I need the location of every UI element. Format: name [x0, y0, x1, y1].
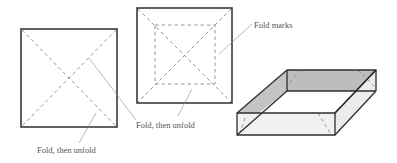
box-front-wall [237, 113, 335, 135]
leader-line [89, 58, 136, 120]
fold-then-unfold-label: Fold, then unfold [37, 145, 97, 155]
origami-box-diagram: Fold, then unfold Fold marks Fold, then … [0, 0, 397, 163]
step-1-square: Fold, then unfold [21, 29, 136, 155]
leader-line [219, 24, 252, 54]
leader-line [79, 113, 96, 143]
step-3-box [237, 70, 376, 135]
fold-marks-label: Fold marks [254, 20, 293, 30]
fold-then-unfold-label: Fold, then unfold [136, 120, 196, 130]
